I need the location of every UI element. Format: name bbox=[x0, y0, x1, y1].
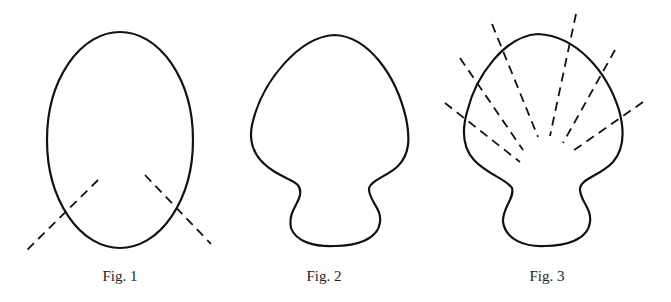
fig2-drawing bbox=[251, 35, 408, 246]
fig3-caption: Fig. 3 bbox=[487, 268, 607, 285]
fig1-ellipse bbox=[47, 32, 193, 248]
fig1-dashed-line-left bbox=[25, 180, 98, 252]
fig1-caption: Fig. 1 bbox=[60, 268, 180, 285]
fig1-drawing bbox=[25, 32, 211, 252]
fig3-outline bbox=[464, 34, 622, 246]
fig2-outline bbox=[251, 35, 408, 246]
fig3-dashed-line-3 bbox=[445, 103, 520, 162]
fig2-caption: Fig. 2 bbox=[264, 268, 384, 285]
fig3-dashed-line-4 bbox=[550, 14, 576, 136]
fig3-dashed-line-5 bbox=[563, 50, 615, 143]
fig3-drawing bbox=[445, 14, 643, 246]
figure-canvas bbox=[0, 0, 671, 302]
